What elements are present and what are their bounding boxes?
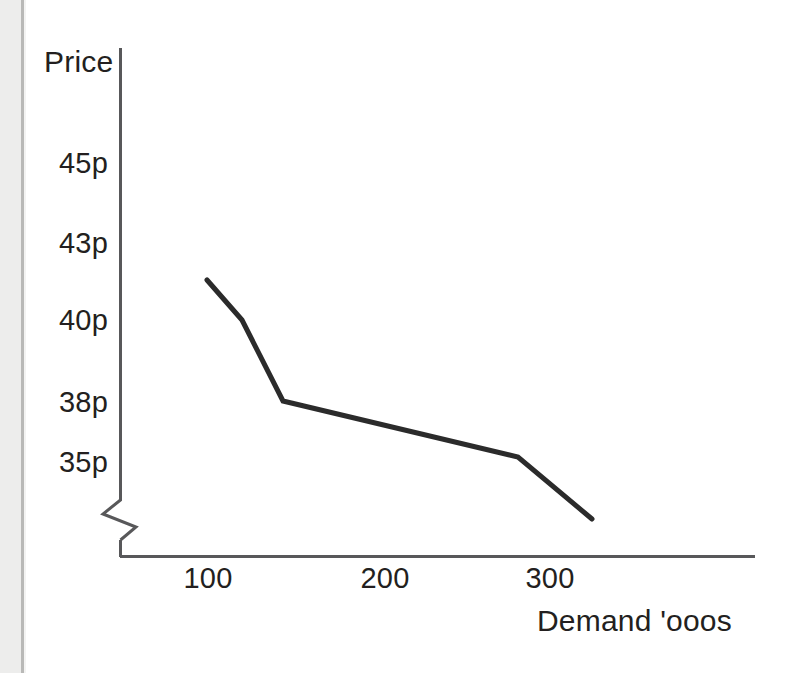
x-tick-label-100: 100 [163, 562, 253, 595]
y-tick-label-43p: 43p [34, 227, 108, 260]
demand-curve-line [207, 280, 592, 519]
y-axis-title: Price [44, 45, 113, 79]
demand-price-line-chart: Price Demand 'ooos 45p 43p 40p 38p 35p 1… [0, 0, 801, 673]
x-tick-label-200: 200 [340, 562, 430, 595]
y-axis-break-zigzag [103, 492, 136, 540]
y-tick-label-38p: 38p [34, 386, 108, 419]
y-tick-label-45p: 45p [34, 147, 108, 180]
chart-page: Price Demand 'ooos 45p 43p 40p 38p 35p 1… [0, 0, 801, 673]
x-tick-label-300: 300 [505, 562, 595, 595]
x-axis-title: Demand 'ooos [537, 604, 732, 638]
y-tick-label-40p: 40p [34, 304, 108, 337]
y-tick-label-35p: 35p [34, 446, 108, 479]
